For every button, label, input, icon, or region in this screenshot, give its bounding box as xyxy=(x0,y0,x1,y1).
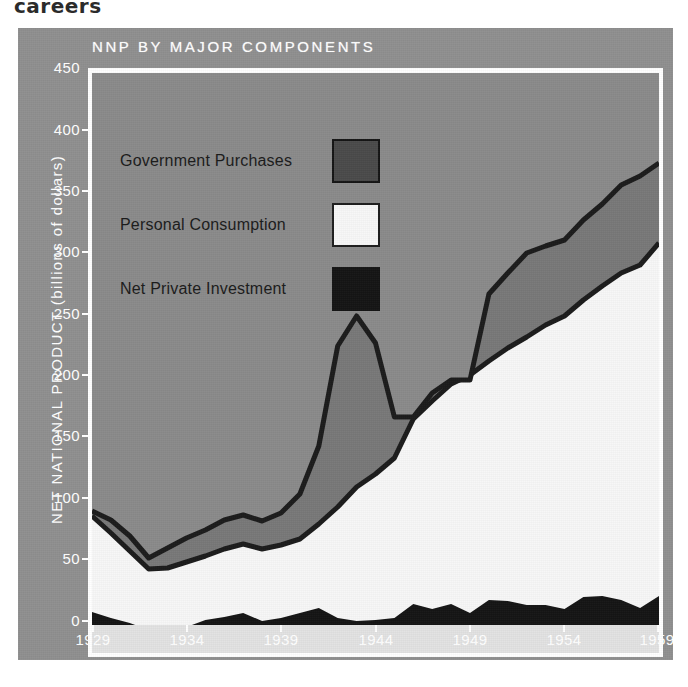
y-tick-label-250: 250 xyxy=(34,305,80,322)
y-tick-label-200: 200 xyxy=(34,366,80,383)
y-tick-label-450: 450 xyxy=(34,59,80,76)
legend-item-government-purchases: Government Purchases xyxy=(120,138,380,184)
legend-swatch-personal-consumption xyxy=(332,203,380,247)
y-tick-label-400: 400 xyxy=(34,121,80,138)
y-tick-label-350: 350 xyxy=(34,182,80,199)
y-tick-label-300: 300 xyxy=(34,243,80,260)
y-tick-label-150: 150 xyxy=(34,427,80,444)
page-top-text-fragment: careers xyxy=(14,0,102,18)
x-tick-label-1949: 1949 xyxy=(442,631,498,648)
legend-swatch-government-purchases xyxy=(332,139,380,183)
x-tick-label-1959: 1959 xyxy=(629,631,673,648)
x-tick-label-1954: 1954 xyxy=(536,631,592,648)
legend-label-government-purchases: Government Purchases xyxy=(120,152,292,170)
figure-card: NNP BY MAJOR COMPONENTS NET NATIONAL PRO… xyxy=(18,28,673,660)
x-tick-label-1929: 1929 xyxy=(65,631,121,648)
x-tick-label-1944: 1944 xyxy=(348,631,404,648)
y-axis-title: NET NATIONAL PRODUCT (billions of dollar… xyxy=(48,80,65,600)
chart-legend: Government Purchases Personal Consumptio… xyxy=(120,138,380,330)
y-tick-label-100: 100 xyxy=(34,489,80,506)
y-tick-label-50: 50 xyxy=(34,550,80,567)
x-tick-label-1934: 1934 xyxy=(159,631,215,648)
y-tick-label-0: 0 xyxy=(34,612,80,629)
legend-label-personal-consumption: Personal Consumption xyxy=(120,216,286,234)
legend-swatch-net-private-investment xyxy=(332,267,380,311)
legend-item-personal-consumption: Personal Consumption xyxy=(120,202,380,248)
chart-title: NNP BY MAJOR COMPONENTS xyxy=(92,38,375,55)
x-tick-label-1939: 1939 xyxy=(253,631,309,648)
legend-item-net-private-investment: Net Private Investment xyxy=(120,266,380,312)
legend-label-net-private-investment: Net Private Investment xyxy=(120,280,286,298)
